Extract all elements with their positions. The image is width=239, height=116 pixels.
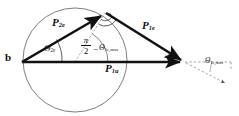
minus-sign-label: − [93, 45, 98, 54]
vector-p1u-base: P [105, 62, 112, 74]
fraction-denominator: 2 [81, 47, 91, 56]
vector-p1e-subscript: 1e [149, 24, 155, 31]
vector-p2e-base: P [52, 16, 59, 28]
vector-p1e-label: P1e [142, 20, 155, 32]
angle-theta1emax-right-label: Θ1e,max [205, 57, 223, 65]
vector-p1e-base: P [142, 19, 149, 31]
angle-theta1emax-subscript: 1e,max [105, 47, 118, 52]
vector-diagram-svg [0, 0, 239, 116]
reference-circle [23, 8, 127, 112]
dashed-diagonal-arrow [186, 63, 225, 83]
figure-canvas: b P2e P1e P1u Θ2e π 2 − Θ1e,max Θ1e,max [0, 0, 239, 116]
origin-point-label: b [5, 52, 11, 63]
vector-p1u-subscript: 1u [112, 67, 119, 74]
angle-theta2e-subscript: 2e [51, 47, 56, 53]
vector-p2e-label: P2e [52, 17, 65, 29]
angle-theta2e-label: Θ2e [44, 44, 55, 53]
vector-p2e-subscript: 2e [59, 21, 65, 28]
angle-theta1emax-center-label: Θ1e,max [99, 44, 118, 53]
fraction-numerator: π [81, 36, 91, 45]
fraction-pi-over-two: π 2 [81, 36, 91, 56]
angle-theta1emax-right-subscript: 1e,max [210, 60, 223, 65]
vector-p1u-label: P1u [105, 63, 118, 75]
